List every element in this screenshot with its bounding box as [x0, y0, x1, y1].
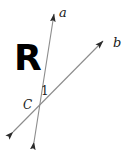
ray-a-line	[34, 14, 54, 142]
vertex-c-label: C	[23, 99, 32, 111]
region-label-r: R	[14, 40, 42, 76]
ray-a-label: a	[59, 6, 67, 19]
angle-1-label: 1	[41, 85, 49, 97]
geometry-figure: R a b 1 C	[0, 0, 127, 151]
ray-b-label: b	[113, 36, 121, 49]
